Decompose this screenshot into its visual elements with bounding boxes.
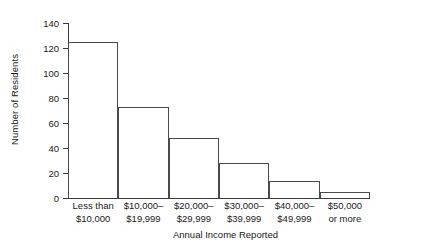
x-tick-label: $30,000–$39,999 [219, 200, 269, 225]
x-tick-label-line: $39,999 [219, 213, 269, 226]
x-tick-label: $40,000–$49,999 [269, 200, 319, 225]
y-axis-title: Number of Residents [4, 0, 26, 198]
y-tick-label: 120 [29, 43, 59, 54]
x-axis-title-text: Annual Income Reported [173, 229, 278, 240]
x-tick-label-line: $29,999 [169, 213, 219, 226]
y-tick-label: 100 [29, 68, 59, 79]
y-tick-mark [63, 23, 68, 24]
x-tick-label-line: $10,000– [118, 200, 168, 213]
y-tick-mark [63, 198, 68, 199]
y-tick-label: 80 [29, 93, 59, 104]
bar [320, 192, 370, 198]
bar [219, 163, 269, 198]
y-axis-title-text: Number of Residents [10, 53, 21, 144]
bar [269, 181, 319, 199]
bar [68, 42, 118, 198]
x-tick-label-line: $20,000– [169, 200, 219, 213]
x-tick-label: Less than$10,000 [68, 200, 118, 225]
x-axis-tick-labels: Less than$10,000$10,000–$19,999$20,000–$… [68, 200, 370, 226]
y-tick-label: 40 [29, 143, 59, 154]
x-tick-label-line: $40,000– [269, 200, 319, 213]
y-tick-label: 0 [29, 193, 59, 204]
x-tick-label: $20,000–$29,999 [169, 200, 219, 225]
x-axis-line [68, 198, 370, 199]
y-tick-label: 140 [29, 18, 59, 29]
bar [118, 107, 168, 198]
x-tick-label: $50,000or more [320, 200, 370, 225]
x-axis-title: Annual Income Reported [0, 229, 423, 240]
bar [169, 138, 219, 198]
chart-figure: Number of Residents 020406080100120140 L… [0, 0, 423, 252]
x-tick-label-line: $50,000 [320, 200, 370, 213]
x-tick-label-line: $49,999 [269, 213, 319, 226]
y-tick-label: 20 [29, 168, 59, 179]
plot-area: 020406080100120140 [68, 23, 370, 198]
x-tick-label-line: Less than [68, 200, 118, 213]
x-tick-label-line: $10,000 [68, 213, 118, 226]
x-tick-label: $10,000–$19,999 [118, 200, 168, 225]
x-tick-label-line: or more [320, 213, 370, 226]
x-tick-label-line: $30,000– [219, 200, 269, 213]
x-tick-label-line: $19,999 [118, 213, 168, 226]
y-tick-label: 60 [29, 118, 59, 129]
